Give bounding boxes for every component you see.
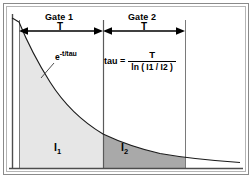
- integral-2-label: I2: [121, 142, 128, 153]
- decay-gate-diagram: Gate 1 T Gate 2 T e-t/tau tau = T ln ( I…: [0, 0, 252, 178]
- integral-1-label: I1: [54, 142, 61, 153]
- tau-formula: tau = T ln ( I1 / I2 ): [104, 50, 176, 71]
- decay-curve-label-exponent: -t/tau: [60, 50, 77, 57]
- tau-formula-numerator: T: [145, 50, 159, 61]
- tau-formula-fraction: T ln ( I1 / I2 ): [128, 50, 176, 71]
- integral-2-subscript: 2: [124, 147, 128, 156]
- tau-formula-lhs: tau =: [104, 56, 125, 66]
- gate-1-duration-label: T: [57, 22, 63, 32]
- integral-1-subscript: 1: [57, 147, 61, 156]
- tau-formula-denominator: ln ( I1 / I2 ): [128, 62, 176, 72]
- gate-2-duration-label: T: [141, 22, 147, 32]
- decay-curve-label: e-t/tau: [55, 53, 77, 62]
